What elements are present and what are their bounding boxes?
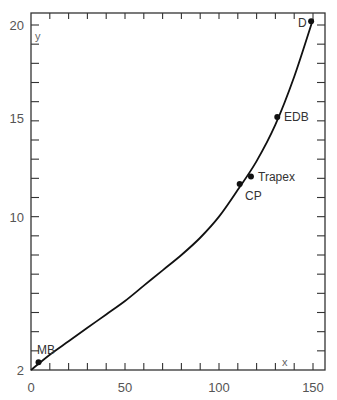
data-point-cp (237, 181, 243, 187)
y-axis-label: y (35, 30, 41, 42)
point-label-trapex: Trapex (258, 170, 295, 184)
data-point-trapex (248, 173, 254, 179)
x-tick-label-0: 0 (27, 380, 34, 395)
point-label-edb: EDB (284, 110, 309, 124)
data-point-d (308, 18, 314, 24)
y-tick-label-15: 15 (10, 111, 24, 126)
x-tick-label-50: 50 (118, 380, 132, 395)
tick-marks (31, 13, 325, 370)
data-curve (31, 19, 313, 370)
data-point-mb (36, 359, 42, 365)
y-tick-label-2: 2 (17, 363, 24, 378)
x-axis-label: x (282, 356, 288, 368)
data-point-edb (274, 114, 280, 120)
point-label-cp: CP (245, 189, 262, 203)
y-tick-label-10: 10 (10, 210, 24, 225)
point-label-d: D (298, 16, 307, 30)
x-tick-label-150: 150 (302, 380, 324, 395)
data-points (36, 18, 315, 365)
plot-frame (31, 13, 325, 370)
x-tick-label-100: 100 (208, 380, 230, 395)
point-labels: MB CP Trapex EDB D (37, 16, 309, 357)
point-label-mb: MB (37, 343, 55, 357)
y-tick-label-20: 20 (10, 18, 24, 33)
tick-labels: 0 50 100 150 2 10 15 20 (10, 18, 324, 395)
chart: 0 50 100 150 2 10 15 20 y x MB CP Trapex… (0, 0, 337, 400)
